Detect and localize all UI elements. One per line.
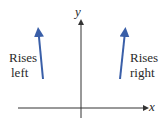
rises-right-label: Rises right (130, 50, 158, 80)
rises-left-label: Rises left (9, 50, 37, 80)
x-axis-label: x (149, 99, 155, 115)
rises-left-arrow (39, 32, 44, 79)
rises-right-line2: right (130, 65, 158, 80)
rises-right-line1: Rises (130, 50, 158, 65)
rises-left-line1: Rises (9, 50, 37, 65)
rises-right-arrow (120, 32, 125, 79)
y-axis-label: y (75, 4, 81, 20)
rises-left-line2: left (9, 65, 37, 80)
